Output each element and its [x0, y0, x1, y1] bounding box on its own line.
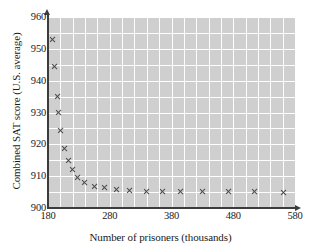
data-point-marker: [61, 145, 68, 152]
x-tick-label: 180: [28, 210, 68, 221]
data-point-marker: [225, 188, 232, 195]
data-point-marker: [199, 188, 206, 195]
gridline-horizontal: [48, 97, 295, 98]
data-point-marker: [55, 109, 62, 116]
x-tick-label: 280: [90, 210, 130, 221]
x-axis-line: [47, 207, 297, 209]
data-point-marker: [143, 188, 150, 195]
data-point-marker: [57, 127, 64, 134]
gridline-horizontal: [48, 65, 295, 66]
gridline-horizontal: [48, 160, 295, 161]
y-tick-label: 960: [2, 12, 46, 23]
data-point-marker: [114, 186, 121, 193]
data-point-marker: [177, 188, 184, 195]
data-point-marker: [51, 63, 58, 70]
gridline-horizontal: [48, 49, 295, 50]
x-tick-label: 480: [213, 210, 253, 221]
gridline-horizontal: [48, 33, 295, 34]
data-point-marker: [280, 189, 287, 196]
gridline-horizontal: [48, 128, 295, 129]
data-point-marker: [69, 166, 76, 173]
gridline-horizontal: [48, 81, 295, 82]
data-point-marker: [74, 174, 81, 181]
y-axis-title: Combined SAT score (U.S. average): [10, 11, 22, 211]
gridline-horizontal: [48, 113, 295, 114]
y-tick-label: 940: [2, 76, 46, 87]
x-axis-title: Number of prisoners (thousands): [0, 231, 321, 243]
gridline-horizontal: [48, 17, 295, 18]
data-point-marker: [127, 187, 134, 194]
scatter-chart-figure: 900910920930940950960 180280380480580 Nu…: [0, 0, 321, 252]
y-tick-label: 930: [2, 108, 46, 119]
x-tick-label: 380: [152, 210, 192, 221]
data-point-marker: [65, 157, 72, 164]
y-axis-line: [47, 13, 49, 208]
x-tick-label: 580: [275, 210, 315, 221]
plot-area: [48, 17, 295, 208]
data-point-marker: [101, 184, 108, 191]
y-tick-label: 950: [2, 44, 46, 55]
data-point-marker: [49, 36, 56, 43]
y-tick-label: 920: [2, 139, 46, 150]
gridline-horizontal: [48, 144, 295, 145]
data-point-marker: [159, 188, 166, 195]
data-point-marker: [82, 179, 89, 186]
data-point-marker: [251, 188, 258, 195]
data-point-marker: [91, 183, 98, 190]
data-point-marker: [54, 93, 61, 100]
y-tick-label: 910: [2, 171, 46, 182]
gridline-horizontal: [48, 176, 295, 177]
